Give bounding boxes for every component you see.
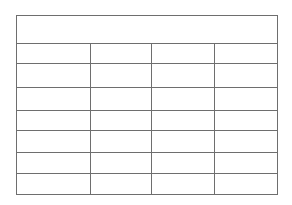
table-cell[interactable] <box>152 174 215 195</box>
table-cell[interactable] <box>215 153 278 174</box>
table-cell[interactable] <box>152 111 215 131</box>
table-cell[interactable] <box>215 131 278 153</box>
table-cell[interactable] <box>152 153 215 174</box>
table-row <box>17 153 278 174</box>
table-cell[interactable] <box>17 88 91 111</box>
table-cell[interactable] <box>215 111 278 131</box>
table-row <box>17 174 278 195</box>
table-cell[interactable] <box>91 111 152 131</box>
table-cell[interactable] <box>152 88 215 111</box>
table-cell[interactable] <box>215 174 278 195</box>
table-cell[interactable] <box>215 88 278 111</box>
table-header-cell[interactable] <box>17 16 278 44</box>
table-row <box>17 111 278 131</box>
table-cell[interactable] <box>91 131 152 153</box>
table-cell[interactable] <box>17 174 91 195</box>
table-cell[interactable] <box>17 153 91 174</box>
table-cell[interactable] <box>152 64 215 88</box>
table-cell[interactable] <box>215 64 278 88</box>
blank-data-table[interactable] <box>16 15 278 195</box>
table-cell[interactable] <box>152 131 215 153</box>
table-cell[interactable] <box>17 44 91 64</box>
table-row <box>17 64 278 88</box>
table-row <box>17 44 278 64</box>
table-row <box>17 131 278 153</box>
table-header-row <box>17 16 278 44</box>
table-cell[interactable] <box>215 44 278 64</box>
table-cell[interactable] <box>91 64 152 88</box>
table-cell[interactable] <box>91 88 152 111</box>
table-cell[interactable] <box>17 64 91 88</box>
page-canvas <box>0 0 292 205</box>
table-cell[interactable] <box>91 174 152 195</box>
table-cell[interactable] <box>152 44 215 64</box>
table-cell[interactable] <box>17 111 91 131</box>
table-cell[interactable] <box>17 131 91 153</box>
table-row <box>17 88 278 111</box>
table-cell[interactable] <box>91 153 152 174</box>
table-cell[interactable] <box>91 44 152 64</box>
